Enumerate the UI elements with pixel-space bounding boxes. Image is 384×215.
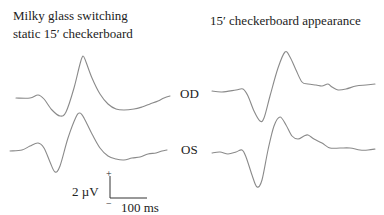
os-label: OS	[181, 142, 198, 158]
trace-left-os	[10, 113, 167, 172]
vep-traces	[0, 0, 384, 215]
od-label: OD	[180, 86, 199, 102]
scale-minus-sign: −	[106, 199, 112, 209]
trace-left-od	[16, 56, 170, 116]
amplitude-scale-label: 2 µV	[72, 184, 99, 200]
scale-bar	[110, 176, 147, 198]
scale-plus-sign: +	[106, 169, 112, 179]
time-scale-label: 100 ms	[121, 200, 159, 215]
trace-right-od	[212, 52, 375, 122]
trace-right-os	[212, 117, 375, 187]
